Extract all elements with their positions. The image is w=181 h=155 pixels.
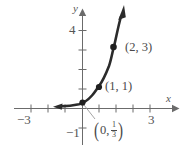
point-marker-2-3 [110, 44, 117, 51]
plot-canvas [0, 0, 181, 155]
fraction-denominator: 3 [111, 131, 117, 139]
point-marker-1-1 [96, 84, 102, 90]
fraction-numerator: 1 [111, 121, 117, 129]
point-marker-0-one-third [79, 99, 85, 105]
curve-arrow-top [118, 5, 126, 20]
zero-coordinate: 0, [100, 124, 109, 137]
x-axis [14, 105, 180, 113]
close-paren: ) [118, 122, 123, 139]
x-axis-label: x [166, 93, 171, 104]
y-tick-label-4: 4 [69, 23, 76, 36]
exponential-curve [53, 5, 126, 110]
y-tick-label-minus-1: −1 [66, 126, 80, 139]
point-label-0-one-third: ( 0, 1 3 ) [93, 121, 124, 140]
point-label-2-3: (2, 3) [125, 41, 152, 54]
fraction-one-third: 1 3 [111, 121, 117, 140]
open-paren: ( [94, 122, 99, 139]
y-axis-label: y [73, 3, 78, 14]
point-label-1-1: (1, 1) [105, 80, 132, 93]
x-tick-label-3: 3 [148, 113, 155, 126]
x-tick-label-minus-3: −3 [17, 113, 31, 126]
exponential-graph-figure: y x 4 −1 −3 3 (2, 3) (1, 1) ( 0, 1 3 ) [0, 0, 181, 155]
